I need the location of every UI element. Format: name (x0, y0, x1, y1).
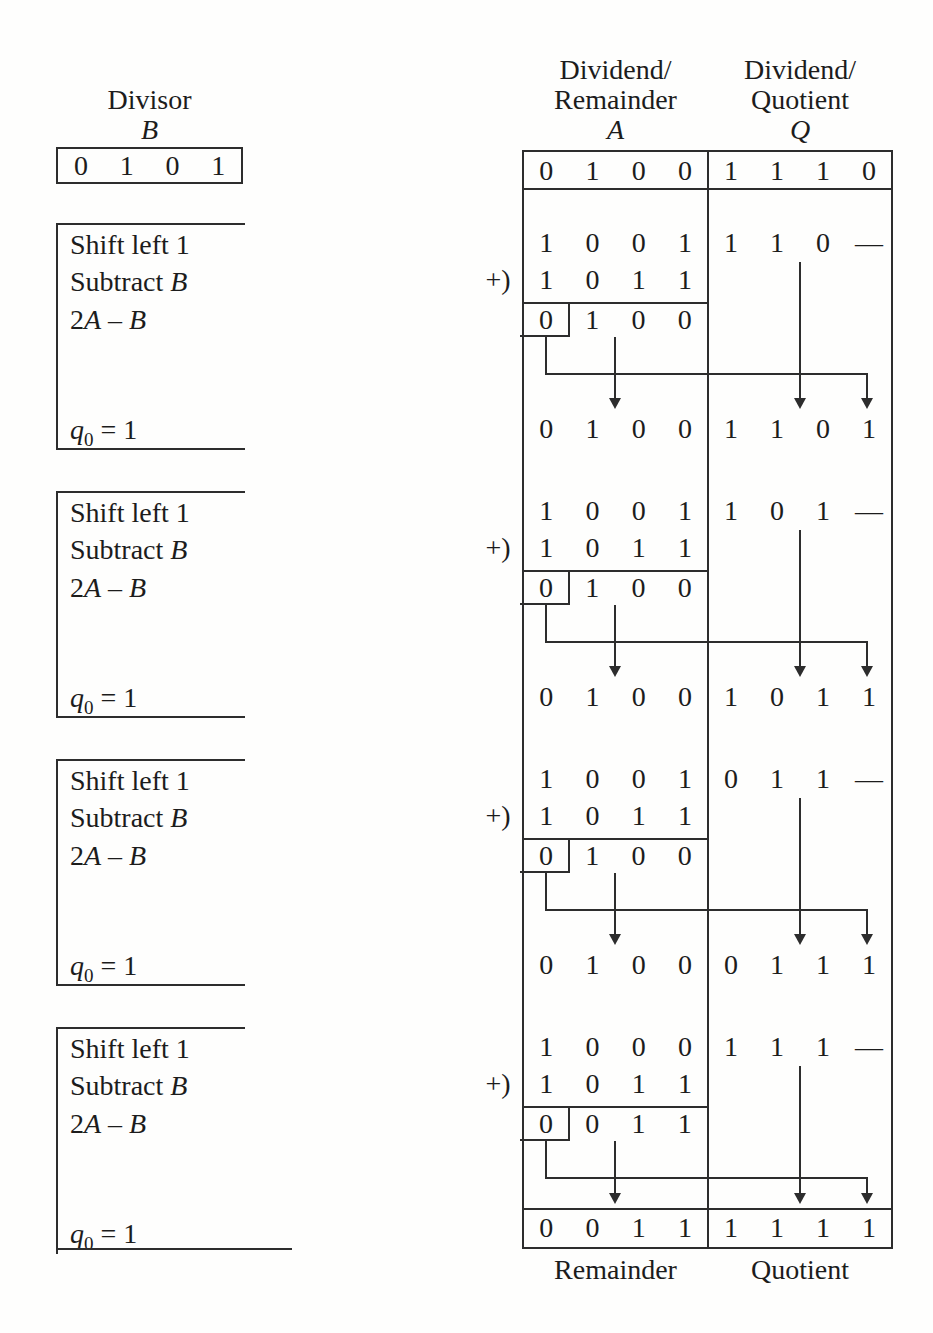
q-sub: 0 (84, 429, 94, 450)
carry-drop-line (545, 335, 547, 375)
initial-q-row: 1110 (708, 154, 892, 188)
bit: 0 (662, 571, 708, 605)
subtract-word: Subtract (70, 266, 170, 297)
step-op-formula: 2A – B (70, 571, 146, 605)
bit: 0 (616, 154, 662, 188)
result-row: 100 (569, 839, 708, 873)
bit: 0 (754, 494, 800, 528)
bit: 0 (662, 303, 708, 337)
new-q-row: 0111 (708, 948, 892, 982)
bit: 0 (569, 1211, 615, 1245)
formula-a: A (84, 840, 101, 871)
bit: 0 (615, 571, 661, 605)
final-row-top-line (522, 1208, 893, 1210)
bit: 1 (800, 762, 846, 796)
addend-row: 1011 (523, 531, 708, 565)
division-diagram: Divisor B 0101 Shift left 1 Subtract B 2… (0, 0, 933, 1333)
q-shift-arrow (799, 262, 801, 398)
bit: 1 (708, 226, 754, 260)
new-a-row: 0100 (523, 948, 708, 982)
bit: 0 (616, 494, 662, 528)
subtract-word: Subtract (70, 534, 170, 565)
bit: 0 (523, 948, 569, 982)
bit: — (846, 762, 892, 796)
step-op-shift: Shift left 1 (70, 764, 190, 798)
bit: 1 (616, 531, 662, 565)
quotient-row: 1111 (708, 1211, 892, 1245)
divisor-register: 0101 (56, 147, 243, 184)
carry-across-line (545, 1177, 868, 1179)
step-box-2-bottom (56, 716, 245, 718)
bit: 1 (569, 154, 615, 188)
bit: 1 (662, 1067, 708, 1101)
bit: 1 (662, 531, 708, 565)
step-q0-result: q0 = 1 (70, 949, 137, 983)
bit: 1 (800, 1211, 846, 1245)
plus-sign: +) (477, 263, 519, 297)
q-shift-arrow (799, 798, 801, 934)
a-shift-arrow (614, 1141, 616, 1193)
formula-b: B (129, 1108, 146, 1139)
q-var: q (70, 682, 84, 713)
carry-to-q-arrow (866, 641, 868, 666)
plus-sign: +) (477, 531, 519, 565)
remainder-row: 0011 (523, 1211, 708, 1245)
q-shift-arrow (799, 1066, 801, 1193)
shifted-a-row: 1001 (523, 762, 708, 796)
bit: 1 (662, 263, 708, 297)
bit: 0 (708, 762, 754, 796)
subtract-word: Subtract (70, 802, 170, 833)
carry-bit: 0 (523, 1107, 569, 1141)
bit: — (846, 1030, 892, 1064)
bit: 0 (569, 1067, 615, 1101)
formula-b: B (129, 572, 146, 603)
subtract-word: Subtract (70, 1070, 170, 1101)
bit: 1 (754, 1211, 800, 1245)
bit: 0 (569, 762, 615, 796)
q-shift-arrow (799, 530, 801, 666)
bit: 0 (569, 263, 615, 297)
step-op-shift: Shift left 1 (70, 496, 190, 530)
bit: 1 (523, 531, 569, 565)
carry-drop-line (545, 603, 547, 643)
bit: 0 (662, 154, 708, 188)
subtract-b: B (170, 534, 187, 565)
bit: — (846, 494, 892, 528)
bit: 0 (708, 948, 754, 982)
subtract-b: B (170, 1070, 187, 1101)
bit: 1 (662, 1211, 708, 1245)
step-op-formula: 2A – B (70, 303, 146, 337)
formula-b: B (129, 304, 146, 335)
q-header-line2: Quotient (708, 83, 892, 117)
step-q0-result: q0 = 1 (70, 413, 137, 447)
plus-sign: +) (477, 799, 519, 833)
formula-coeff: 2 (70, 840, 84, 871)
formula-coeff: 2 (70, 572, 84, 603)
carry-across-line (545, 373, 868, 375)
bit: 1 (569, 303, 615, 337)
bit: 0 (662, 412, 708, 446)
step-op-formula: 2A – B (70, 1107, 146, 1141)
step-op-subtract: Subtract B (70, 801, 187, 835)
carry-drop-line (545, 871, 547, 911)
bit: 0 (569, 531, 615, 565)
shifted-a-row: 1001 (523, 494, 708, 528)
bit: 1 (846, 412, 892, 446)
new-q-row: 1011 (708, 680, 892, 714)
bit: 1 (662, 226, 708, 260)
bit: 1 (569, 948, 615, 982)
shifted-q-row: 011— (708, 762, 892, 796)
a-symbol: A (523, 113, 708, 147)
quotient-label: Quotient (708, 1253, 892, 1287)
carry-drop-line (545, 1139, 547, 1179)
formula-a: A (84, 304, 101, 335)
initial-a-row: 0100 (523, 154, 708, 188)
carry-to-q-arrow (866, 909, 868, 934)
bit: 1 (846, 1211, 892, 1245)
bit: 1 (846, 948, 892, 982)
carry-bit: 0 (523, 839, 569, 873)
bit: 0 (754, 680, 800, 714)
q-value: = 1 (94, 950, 138, 981)
divisor-title: Divisor (56, 83, 243, 117)
bit: 1 (754, 1030, 800, 1064)
